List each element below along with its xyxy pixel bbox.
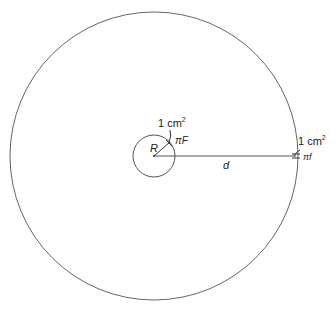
- outer-flux-label: πf: [303, 152, 313, 162]
- outer-area-label: 1 cm2: [298, 134, 326, 147]
- inner-flux-label: πF: [175, 135, 189, 146]
- diagram-canvas: R d 1 cm2 πF 1 cm2 πf: [0, 0, 335, 314]
- inner-area-arrow: [169, 130, 171, 142]
- outer-area-arrow: [294, 150, 300, 156]
- center-dot: [153, 155, 155, 157]
- distance-label: d: [223, 159, 230, 171]
- inner-area-label: 1 cm2: [158, 116, 186, 129]
- radius-label: R: [150, 142, 158, 154]
